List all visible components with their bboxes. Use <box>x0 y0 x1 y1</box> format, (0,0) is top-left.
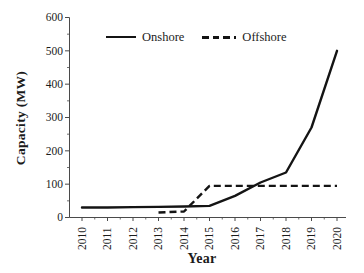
x-tick-label: 2013 <box>152 227 164 250</box>
x-tick-label: 2019 <box>305 227 317 250</box>
legend-label-offshore: Offshore <box>242 30 286 44</box>
x-tick-label: 2016 <box>229 227 241 250</box>
x-axis-title: Year <box>187 251 216 267</box>
y-tick-label: 100 <box>46 178 64 190</box>
chart-figure: 0100200300400500600201020112012201320142… <box>0 0 364 273</box>
y-tick-label: 200 <box>46 145 64 157</box>
y-tick-label: 600 <box>46 11 64 23</box>
legend-item-offshore: Offshore <box>202 30 286 44</box>
y-tick-label: 500 <box>46 45 64 57</box>
legend-label-onshore: Onshore <box>142 30 184 44</box>
x-tick-label: 2015 <box>203 227 215 250</box>
y-axis-title: Capacity (MW) <box>13 71 29 165</box>
x-tick-label: 2012 <box>127 227 139 250</box>
x-tick-label: 2010 <box>76 227 88 250</box>
series-line-onshore <box>82 51 337 208</box>
legend: Onshore Offshore <box>106 30 287 44</box>
offshore-line-swatch-icon <box>202 36 236 39</box>
x-tick-label: 2018 <box>280 227 292 250</box>
y-tick-label: 0 <box>57 211 63 223</box>
onshore-line-swatch-icon <box>106 36 136 39</box>
y-tick-label: 400 <box>46 78 64 90</box>
x-tick-label: 2017 <box>254 227 266 250</box>
x-tick-label: 2011 <box>101 227 113 250</box>
x-tick-label: 2014 <box>178 227 190 250</box>
legend-item-onshore: Onshore <box>106 30 184 44</box>
y-tick-label: 300 <box>46 111 64 123</box>
x-tick-label: 2020 <box>331 227 343 250</box>
